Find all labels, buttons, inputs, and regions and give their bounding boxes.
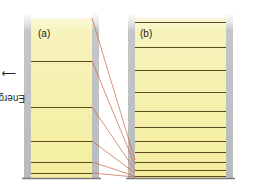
panel-a-label: (a) (38, 28, 50, 39)
panel-a-well (31, 18, 92, 178)
up-arrow-icon: ⟶ (2, 67, 16, 78)
panel-a (22, 14, 101, 179)
energy-level-diagram: Energy ⟶ (a) (b) (0, 0, 263, 189)
energy-axis-label: Energy ⟶ (2, 62, 16, 118)
energy-label-text: Energy (0, 93, 25, 104)
panel-b-right-wall (226, 14, 233, 178)
panel-b-label: (b) (140, 28, 152, 39)
panels-layer (22, 14, 235, 179)
panel-b-well (135, 18, 226, 178)
panel-b-left-wall (128, 14, 135, 178)
